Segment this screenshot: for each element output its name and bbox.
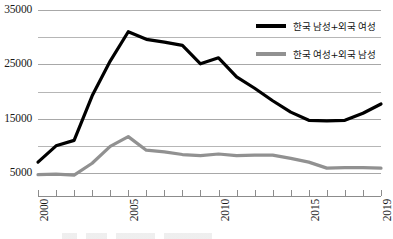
legend-swatch-icon-series-0 (256, 24, 286, 28)
x-axis-label-2000: 2000 (38, 199, 50, 221)
x-axis-label-2010: 2010 (219, 199, 231, 221)
x-axis-tick-2002 (74, 190, 75, 196)
x-axis-tick-2007 (164, 190, 165, 196)
x-axis-ticks (38, 190, 381, 197)
gridline-5000 (38, 173, 381, 174)
x-axis-tick-2001 (56, 190, 57, 196)
legend-label-series-0: 한국 남성+외국 여성 (293, 19, 376, 33)
y-axis-labels: 35000 25000 15000 5000 (0, 0, 36, 190)
x-axis-tick-2009 (200, 190, 201, 196)
legend-item-korean-male-foreign-female[interactable]: 한국 남성+외국 여성 (256, 12, 386, 40)
series-line-korean-female-foreign-male (38, 137, 381, 176)
x-axis-tick-2016 (327, 190, 328, 196)
x-axis-tick-2010 (219, 190, 220, 196)
y-axis-label-35000: 35000 (4, 4, 32, 16)
x-axis-tick-2003 (92, 190, 93, 196)
x-axis-tick-2017 (345, 190, 346, 196)
x-axis-tick-2014 (291, 190, 292, 196)
x-axis-tick-2013 (273, 190, 274, 196)
x-axis-label-2019: 2019 (381, 199, 393, 221)
x-axis-tick-2008 (182, 190, 183, 196)
x-axis-tick-2011 (237, 190, 238, 196)
x-axis-tick-2012 (255, 190, 256, 196)
x-axis-label-2005: 2005 (128, 199, 140, 221)
cropped-caption-fragment (62, 233, 212, 239)
legend-swatch-icon-series-1 (256, 52, 286, 56)
x-axis-tick-2006 (146, 190, 147, 196)
x-axis-label-2015: 2015 (309, 199, 321, 221)
y-axis-label-25000: 25000 (4, 58, 32, 70)
x-axis-tick-2005 (128, 190, 129, 196)
x-axis-tick-2015 (309, 190, 310, 196)
x-axis-tick-2019 (381, 190, 382, 196)
legend-label-series-1: 한국 여성+외국 남성 (293, 47, 376, 61)
y-axis-label-5000: 5000 (10, 167, 32, 179)
y-axis-label-15000: 15000 (4, 113, 32, 125)
x-axis-tick-2000 (38, 190, 39, 196)
x-axis-tick-2018 (363, 190, 364, 196)
x-axis-tick-2004 (110, 190, 111, 196)
legend-item-korean-female-foreign-male[interactable]: 한국 여성+외국 남성 (256, 40, 386, 68)
chart-legend: 한국 남성+외국 여성 한국 여성+외국 남성 (256, 12, 386, 68)
